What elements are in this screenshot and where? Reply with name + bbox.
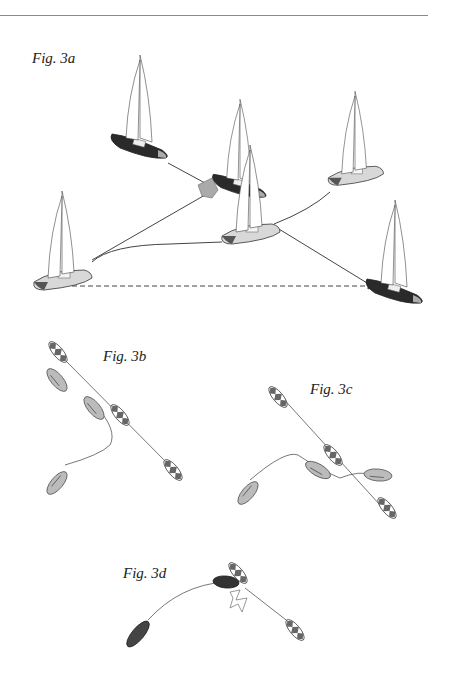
fig-3a-boats	[34, 55, 423, 303]
fig-3d-diagram	[123, 560, 307, 650]
fig-3c-diagram	[234, 384, 399, 521]
fig-3b-diagram	[43, 339, 185, 498]
figure-illustrations	[0, 0, 452, 679]
